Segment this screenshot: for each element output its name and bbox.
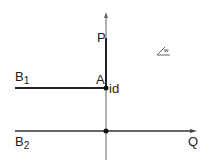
label-b1-main: B <box>15 69 24 84</box>
label-b2-main: B <box>15 134 24 149</box>
label-q: Q <box>188 135 198 148</box>
label-b1-sub: 1 <box>24 75 30 86</box>
label-b1: B1 <box>15 70 29 86</box>
point-origin-dot <box>104 129 109 134</box>
label-b2-sub: 2 <box>24 140 30 151</box>
label-a: A <box>96 73 105 86</box>
label-id: id <box>109 82 119 95</box>
vertical-axis-arrow-icon <box>104 12 108 18</box>
label-angle-w: w <box>164 47 168 53</box>
q-arrow-icon <box>190 129 197 133</box>
label-b2: B2 <box>15 135 29 151</box>
label-p: P <box>97 31 106 44</box>
